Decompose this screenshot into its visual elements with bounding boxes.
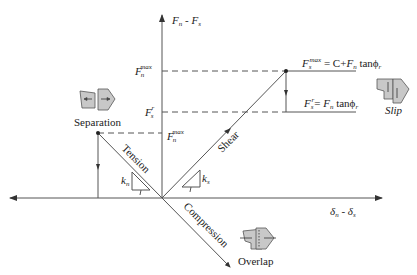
slip-label: Slip [385,104,403,116]
ks-triangle [182,170,200,192]
slip-point [284,69,288,73]
slip-blocks-icon [377,79,409,103]
direction-arrows [96,90,288,170]
kn-label: kn [121,174,130,188]
tension-label: Tension [120,142,153,175]
fn-max-label: Fnmax [134,63,153,79]
shear-label: Shear [215,128,241,154]
fn-max-mid-label: Fnmax [166,128,185,144]
separation-blocks-icon [80,89,115,110]
overlap-label: Overlap [238,255,274,267]
y-axis-label: Fn - Fs [171,14,201,28]
cohesive-law-diagram: Fn - Fs δn - δs Fnmax Fsr Fnmax Fsmax = … [0,0,417,275]
fs-r-equation: Fsr= Fn tanϕr [303,96,358,111]
overlap-blocks-icon [240,228,276,249]
ks-label: ks [202,172,210,186]
slip-drop-arrow [284,90,288,96]
fs-r-label: Fsr [144,104,154,120]
fs-max-equation: Fsmax = C+Fn tanϕr [301,56,382,71]
x-axis-label: δn - δs [330,205,356,219]
separation-label: Separation [74,116,122,128]
separation-point [96,131,100,135]
separation-drop-arrow [96,164,100,170]
